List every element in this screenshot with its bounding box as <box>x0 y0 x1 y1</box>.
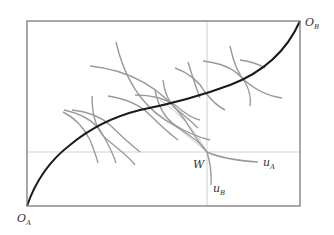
edgeworth-box-diagram: OA OB W uA uB <box>0 0 334 235</box>
endowment-label: W <box>193 158 206 171</box>
origin-b-label: OB <box>305 16 319 31</box>
indifference-curves <box>63 42 282 185</box>
origin-a-label: OA <box>17 212 31 227</box>
indifference-curve-a-endowment <box>90 66 258 162</box>
indifference-b-label: uB <box>213 182 225 197</box>
indifference-a-label: uA <box>263 156 275 171</box>
